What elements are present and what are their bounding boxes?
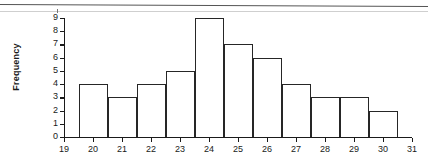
y-tick-label: 1 — [53, 119, 58, 128]
y-tick-mark — [60, 124, 64, 125]
y-tick-label: 6 — [53, 53, 58, 62]
x-tick-label: 20 — [81, 144, 105, 154]
y-tick-label: 9 — [53, 13, 58, 22]
x-tick-mark — [325, 138, 326, 142]
x-tick-label: 31 — [400, 144, 424, 154]
histogram-bar — [195, 18, 224, 137]
y-axis-spine — [64, 18, 65, 137]
histogram-bar — [79, 84, 108, 137]
x-tick-label: 21 — [110, 144, 134, 154]
y-tick-mark — [60, 84, 64, 85]
y-tick-mark — [60, 71, 64, 72]
y-tick-mark — [60, 97, 64, 98]
x-tick-mark — [93, 138, 94, 142]
y-tick-label: 7 — [53, 39, 58, 48]
y-tick-label: 2 — [53, 106, 58, 115]
x-tick-label: 28 — [313, 144, 337, 154]
x-tick-mark — [354, 138, 355, 142]
y-axis-title: Frequency — [11, 32, 21, 102]
histogram-bar — [224, 44, 253, 137]
x-tick-mark — [412, 138, 413, 142]
x-tick-mark — [64, 138, 65, 142]
y-tick-mark — [60, 18, 64, 19]
x-tick-label: 26 — [255, 144, 279, 154]
y-tick-label: 3 — [53, 92, 58, 101]
y-tick-label: 8 — [53, 26, 58, 35]
histogram-bar — [108, 97, 137, 137]
plot-area: 0123456789 19202122232425262728293031 — [64, 18, 412, 137]
histogram-bar — [137, 84, 166, 137]
x-tick-mark — [209, 138, 210, 142]
y-tick-label: 4 — [53, 79, 58, 88]
y-tick-mark — [60, 31, 64, 32]
x-tick-mark — [296, 138, 297, 142]
histogram-bar — [282, 84, 311, 137]
histogram-bar — [369, 111, 398, 137]
x-tick-label: 30 — [371, 144, 395, 154]
x-tick-label: 23 — [168, 144, 192, 154]
x-tick-mark — [122, 138, 123, 142]
y-tick-mark — [60, 44, 64, 45]
x-tick-mark — [267, 138, 268, 142]
histogram-bar — [253, 58, 282, 137]
x-tick-label: 29 — [342, 144, 366, 154]
x-tick-mark — [151, 138, 152, 142]
y-tick-mark — [60, 111, 64, 112]
histogram-bar — [340, 97, 369, 137]
x-tick-label: 19 — [52, 144, 76, 154]
y-tick-label: 0 — [53, 132, 58, 141]
x-tick-label: 27 — [284, 144, 308, 154]
histogram-figure: Frequency 0123456789 1920212223242526272… — [0, 0, 428, 164]
x-tick-mark — [180, 138, 181, 142]
x-tick-label: 22 — [139, 144, 163, 154]
x-tick-label: 24 — [197, 144, 221, 154]
x-tick-label: 25 — [226, 144, 250, 154]
histogram-bar — [311, 97, 340, 137]
x-tick-mark — [238, 138, 239, 142]
x-tick-mark — [383, 138, 384, 142]
y-tick-label: 5 — [53, 66, 58, 75]
histogram-bar — [166, 71, 195, 137]
y-tick-mark — [60, 58, 64, 59]
